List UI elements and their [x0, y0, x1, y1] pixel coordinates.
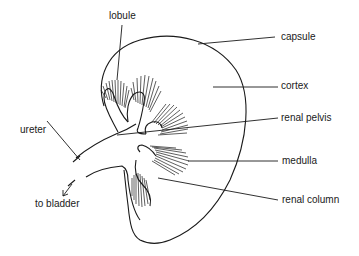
kidney-capsule-outline: [101, 36, 246, 243]
label-cortex: cortex: [281, 80, 308, 91]
label-lobule: lobule: [109, 10, 136, 21]
label-medulla: medulla: [282, 155, 317, 166]
pelvis-upper-wall: [76, 124, 136, 158]
label-renal-pelvis: renal pelvis: [281, 112, 332, 123]
leader-ureter: [47, 121, 80, 160]
leader-renal-column: [158, 178, 278, 200]
label-capsule: capsule: [281, 31, 315, 42]
leader-capsule: [198, 37, 275, 44]
calyx-lower: [138, 145, 156, 156]
label-to-bladder: to bladder: [35, 198, 79, 209]
kidney-diagram: lobule capsule cortex renal pelvis medul…: [0, 0, 359, 256]
label-ureter: ureter: [20, 124, 46, 135]
label-renal-column: renal column: [282, 194, 339, 205]
leader-lobule: [117, 25, 122, 80]
pelvis-lower-wall: [86, 166, 128, 180]
pyramid-right-lower: [150, 146, 189, 175]
leader-renal-pelvis: [117, 118, 278, 135]
